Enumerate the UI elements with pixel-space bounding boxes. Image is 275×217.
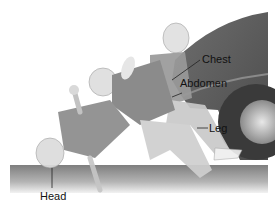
label-abdomen: Abdomen	[180, 78, 227, 89]
label-leg: Leg	[209, 123, 227, 134]
label-chest: Chest	[202, 54, 231, 65]
ground	[10, 165, 268, 193]
label-head: Head	[40, 191, 66, 202]
injury-diagram	[0, 0, 275, 217]
